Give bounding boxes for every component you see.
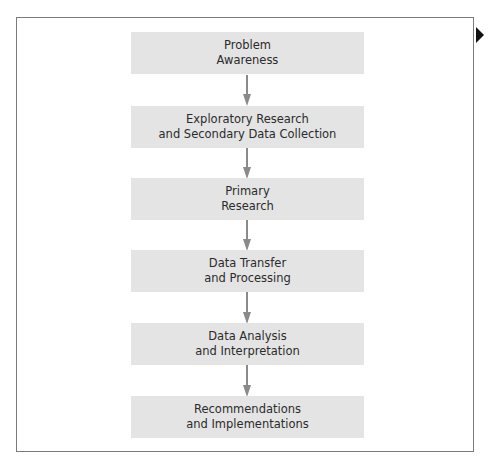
arrow-down-icon: [243, 365, 251, 397]
step-label-line1: Data Analysis: [195, 329, 300, 344]
step-label-line1: Recommendations: [186, 402, 309, 417]
arrow-down-icon: [243, 220, 251, 251]
step-label-line2: Awareness: [217, 53, 279, 68]
step-label-line2: and Interpretation: [195, 344, 300, 359]
step-recommendations: Recommendations and Implementations: [131, 396, 364, 438]
step-label-line2: and Processing: [204, 271, 291, 286]
step-label-line1: Exploratory Research: [159, 112, 337, 127]
step-label-line1: Problem: [217, 38, 279, 53]
step-label-line2: and Implementations: [186, 417, 309, 432]
step-label-line1: Data Transfer: [204, 256, 291, 271]
step-data-analysis: Data Analysis and Interpretation: [131, 323, 364, 365]
step-problem-awareness: Problem Awareness: [131, 32, 364, 74]
arrow-down-icon: [243, 75, 251, 106]
step-data-transfer: Data Transfer and Processing: [131, 250, 364, 292]
triangle-marker-icon: [476, 27, 484, 43]
step-label-line1: Primary: [221, 184, 274, 199]
arrow-down-icon: [243, 292, 251, 324]
step-label-line2: Research: [221, 199, 274, 214]
step-exploratory-research: Exploratory Research and Secondary Data …: [131, 106, 364, 148]
step-primary-research: Primary Research: [131, 178, 364, 220]
step-label-line2: and Secondary Data Collection: [159, 127, 337, 142]
arrow-down-icon: [243, 148, 251, 179]
